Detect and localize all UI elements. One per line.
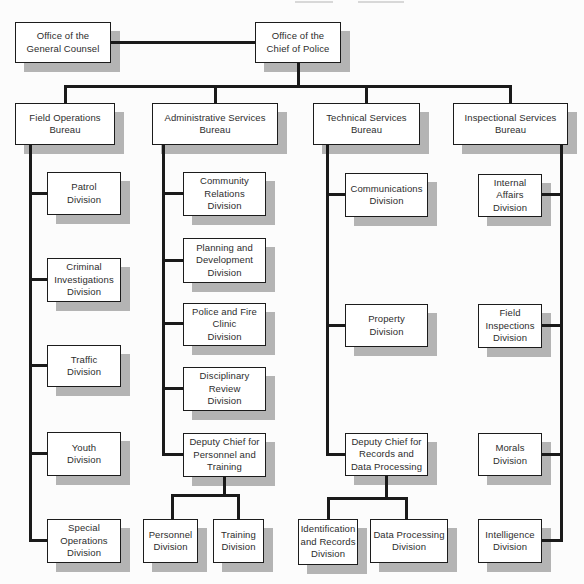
org-node-label-line: Internal [494,177,527,189]
connector-segment [31,278,47,281]
org-node-personnel-division: PersonnelDivision [143,519,198,563]
org-node-label-line: Chief of Police [267,43,330,55]
connector-segment [164,192,183,195]
org-node-label-line: Inspections [485,320,534,332]
connector-segment [164,453,183,456]
org-node-inspectional-services-bureau: Inspectional ServicesBureau [453,103,568,145]
org-node-label-line: Division [67,194,101,206]
org-node-label-line: Inspectional Services [465,112,557,124]
org-node-label-line: Office of the [272,30,324,42]
org-node-label-line: Personnel and [193,449,256,461]
org-node-patrol-division: PatrolDivision [47,172,121,215]
org-node-label-line: Bureau [495,124,526,136]
org-node-label-line: Bureau [351,124,382,136]
connector-segment [237,494,240,519]
org-node-label-line: Police and Fire [192,306,257,318]
org-node-data-processing-division: Data ProcessingDivision [370,519,448,563]
org-node-deputy-chief-records-data-processing: Deputy Chief forRecords andData Processi… [345,433,428,476]
org-node-field-operations-bureau: Field OperationsBureau [15,103,115,145]
org-node-label-line: Division [221,541,255,553]
org-node-special-operations-division: SpecialOperationsDivision [47,519,121,563]
org-node-label-line: Morals [495,442,524,454]
connector-segment [542,539,560,542]
org-node-label-line: Identification [301,523,356,535]
org-node-label-line: Division [153,541,187,553]
connector-segment [164,387,183,390]
org-node-traffic-division: TrafficDivision [47,345,121,387]
connector-segment [297,62,300,86]
org-node-label-line: Field Operations [29,112,100,124]
connector-segment [31,192,47,195]
org-node-label-line: Development [196,254,253,266]
connector-segment [164,322,183,325]
org-node-label-line: Relations [204,188,245,200]
org-node-label-line: Division [493,541,527,553]
org-node-label-line: Community [200,175,249,187]
cropped-caption-remnant [295,1,333,3]
org-node-field-inspections-division: FieldInspectionsDivision [478,304,542,348]
connector-segment [64,85,67,103]
org-node-general-counsel: Office of theGeneral Counsel [15,22,111,63]
org-node-training-division: TrainingDivision [213,519,264,563]
connector-segment [171,494,240,497]
org-chart: Office of theGeneral CounselOffice of th… [0,0,584,584]
connector-segment [328,193,345,196]
org-node-youth-division: YouthDivision [47,432,121,476]
org-node-label-line: Deputy Chief for [351,436,421,448]
org-node-label-line: Criminal [66,261,102,273]
org-node-label-line: Communications [350,183,422,195]
connector-segment [164,259,183,262]
connector-segment [365,85,368,103]
org-node-label-line: Investigations [54,274,114,286]
org-node-property-division: PropertyDivision [345,304,428,347]
org-node-label-line: Intelligence [485,529,534,541]
connector-segment [162,144,165,456]
org-node-label-line: Division [207,200,241,212]
org-node-internal-affairs-division: InternalAffairsDivision [478,174,542,217]
connector-segment [111,41,255,44]
org-node-label-line: Bureau [199,124,230,136]
org-node-label-line: Youth [72,442,96,454]
org-node-label-line: Review [209,383,241,395]
org-node-deputy-chief-personnel-training: Deputy Chief forPersonnel andTraining [183,433,266,477]
org-node-label-line: Division [67,286,101,298]
org-node-label-line: Training [221,529,256,541]
org-node-label-line: Division [207,395,241,407]
org-node-label-line: Operations [60,535,107,547]
org-node-disciplinary-review-division: DisciplinaryReviewDivision [183,367,266,411]
org-node-label-line: Disciplinary [200,370,250,382]
org-node-label-line: Division [207,267,241,279]
connector-segment [385,476,388,499]
cropped-caption-remnant [358,1,404,3]
org-node-identification-records-division: Identificationand RecordsDivision [298,519,358,565]
org-node-label-line: Bureau [49,124,80,136]
connector-segment [31,539,47,542]
org-node-label-line: Office of the [37,30,89,42]
org-node-label-line: Traffic [71,354,98,366]
org-node-label-line: Division [493,455,527,467]
org-node-label-line: Technical Services [326,112,406,124]
connector-segment [509,85,512,103]
connector-segment [171,494,174,519]
org-node-label-line: Personnel [149,529,193,541]
connector-segment [327,497,408,500]
org-node-communications-division: CommunicationsDivision [345,173,428,217]
org-node-label-line: Division [493,332,527,344]
org-node-label-line: Division [67,454,101,466]
org-node-criminal-investigations-division: CriminalInvestigationsDivision [47,258,121,302]
org-node-label-line: Division [369,326,403,338]
org-node-label-line: Division [392,541,426,553]
org-node-label-line: Clinic [213,318,237,330]
org-node-label-line: Affairs [496,189,523,201]
org-node-label-line: Property [368,313,405,325]
org-node-label-line: Deputy Chief for [189,436,259,448]
org-node-label-line: Division [207,331,241,343]
connector-segment [31,452,47,455]
connector-segment [560,144,563,542]
connector-segment [328,324,345,327]
org-node-police-fire-clinic-division: Police and FireClinicDivision [183,303,266,346]
org-node-label-line: Patrol [71,181,96,193]
connector-segment [64,85,512,88]
org-node-label-line: Planning and [196,242,253,254]
org-node-label-line: Training [207,461,242,473]
